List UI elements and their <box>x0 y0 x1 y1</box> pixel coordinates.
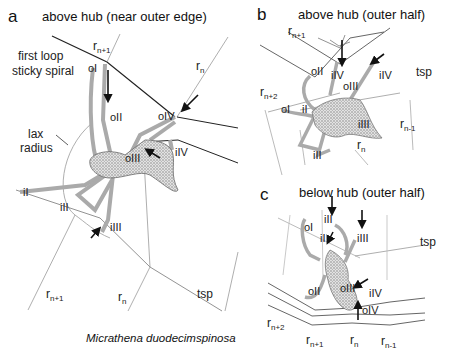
panel-c-title: below hub (outer half) <box>299 186 425 199</box>
label-b-oII: oII <box>311 66 323 77</box>
label-sticky-spiral: sticky spiral <box>12 65 74 77</box>
label-b-iIV-right: iIV <box>379 70 392 81</box>
panel-c-letter: c <box>260 186 269 203</box>
panel-a-title: above hub (near outer edge) <box>42 10 207 23</box>
label-b-iIII: iIII <box>358 119 370 130</box>
label-b-tsp: tsp <box>416 66 432 78</box>
species-caption: Micrathena duodecimspinosa <box>86 332 236 344</box>
label-a-iIII: iIII <box>110 222 122 233</box>
label-c-iIV: iIV <box>369 288 382 299</box>
panel-b-title: above hub (outer half) <box>298 8 425 21</box>
label-a-rn: rn <box>196 60 204 75</box>
label-c-oIV: oIV <box>362 305 379 316</box>
label-c-tsp: tsp <box>420 236 436 248</box>
label-b-rn: rn <box>357 139 365 154</box>
label-c-oIII: oIII <box>340 283 355 294</box>
panel-b-spider <box>283 40 384 155</box>
label-c-oII: oII <box>308 286 320 297</box>
panel-c-spider <box>302 196 368 320</box>
label-a-iIV: iIV <box>175 147 188 158</box>
label-a-iI: iI <box>23 187 29 198</box>
label-c-iIII: iIII <box>357 233 369 244</box>
panel-a-letter: a <box>8 8 17 25</box>
label-a-rn1: rn+1 <box>93 40 111 55</box>
panel-b-letter: b <box>257 6 266 23</box>
label-b-rn2: rn+2 <box>260 86 278 101</box>
label-c-rn2: rn+2 <box>267 317 285 332</box>
label-c-iI: iI <box>320 233 326 244</box>
label-b-iIV-left: iIV <box>331 70 344 81</box>
label-a-oIV: oIV <box>158 111 175 122</box>
label-b-rnm1: rn-1 <box>400 118 416 133</box>
label-c-rn: rn <box>350 334 358 349</box>
label-first-loop: first loop <box>18 50 63 62</box>
label-c-oI: oI <box>304 222 313 233</box>
label-c-rnm1: rn-1 <box>381 335 397 350</box>
label-radius: radius <box>20 142 53 154</box>
label-a-rn-bottom: rn <box>118 291 126 306</box>
label-b-oI: oI <box>281 104 290 115</box>
figure-drawing <box>0 0 452 355</box>
label-a-oIII: oIII <box>125 153 140 164</box>
label-c-rn1: rn+1 <box>306 334 324 349</box>
label-b-oIII: oIII <box>343 81 358 92</box>
label-a-oI: oI <box>88 63 97 74</box>
label-c-iII: iII <box>324 214 333 225</box>
label-a-iII: iII <box>60 202 69 213</box>
label-b-rn1: rn+1 <box>288 25 306 40</box>
label-a-rn1-bottom: rn+1 <box>46 288 64 303</box>
label-a-tsp: tsp <box>197 288 213 300</box>
label-a-oII: oII <box>110 112 122 123</box>
label-lax: lax <box>28 128 43 140</box>
label-b-iII: iII <box>313 150 322 161</box>
label-b-iI: iI <box>302 104 308 115</box>
